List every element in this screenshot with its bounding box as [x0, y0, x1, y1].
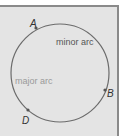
circle-diagram: A B D minor arc major arc	[0, 0, 128, 136]
minor-arc-label: minor arc	[56, 37, 94, 47]
point-d-label: D	[22, 115, 29, 126]
point-b-label: B	[107, 88, 114, 99]
major-arc-label: major arc	[15, 76, 53, 86]
point-d-dot	[26, 108, 29, 111]
point-a-label: A	[29, 18, 37, 29]
